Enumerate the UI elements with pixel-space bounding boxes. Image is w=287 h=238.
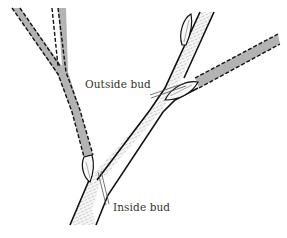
left-pruned-branch [12,8,93,157]
main-stem [70,12,214,225]
outside-bud-label: Outside bud [85,78,151,90]
right-pruned-branch [195,34,280,88]
inside-bud-label: Inside bud [113,201,170,213]
